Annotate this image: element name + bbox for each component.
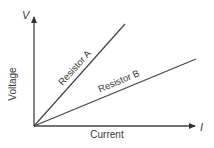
y-axis-label: Voltage <box>7 67 18 101</box>
resistor-b-label: Resistor B <box>96 67 141 94</box>
resistor-a-label: Resistor A <box>56 47 94 87</box>
x-axis-label: Current <box>90 129 124 140</box>
resistor-a-line <box>34 24 125 126</box>
x-axis-symbol: I <box>200 121 203 133</box>
resistor-b-line <box>34 59 196 126</box>
y-axis-symbol: V <box>22 9 31 21</box>
vi-graph: V I Voltage Current Resistor A Resistor … <box>0 0 214 148</box>
